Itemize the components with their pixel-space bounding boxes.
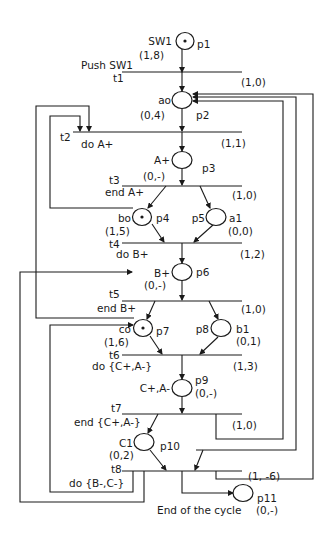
place-marking: (0,-) bbox=[143, 170, 165, 182]
place-label: C1 bbox=[119, 437, 133, 449]
place-id: p5 bbox=[192, 212, 205, 224]
transition-value: (1,0) bbox=[232, 189, 257, 201]
place-id: p2 bbox=[196, 109, 209, 121]
place-id: p7 bbox=[156, 325, 169, 337]
places bbox=[133, 33, 254, 502]
transition-id: t5 bbox=[109, 288, 120, 300]
place-label: A+ bbox=[154, 154, 170, 166]
transition-id: t7 bbox=[111, 402, 122, 414]
place-label: ao bbox=[158, 94, 171, 106]
transition-label: do {C+,A-} bbox=[92, 360, 152, 372]
place-id: p3 bbox=[202, 162, 215, 174]
place-id: p11 bbox=[257, 492, 277, 504]
transition-value: (1,3) bbox=[233, 360, 258, 372]
transition-value: (1,0) bbox=[241, 76, 266, 88]
place-label: End of the cycle bbox=[157, 504, 241, 516]
transition-label: end A+ bbox=[105, 186, 144, 198]
token-icon bbox=[183, 39, 186, 42]
place-marking: (0,-) bbox=[256, 504, 278, 516]
place-id: p4 bbox=[156, 212, 170, 224]
labels: SW1 (1,8) p1 Push SW1 t1 (1,0) ao (0,4) … bbox=[60, 35, 280, 516]
place-label: B+ bbox=[154, 267, 170, 279]
place-label: bo bbox=[118, 212, 131, 224]
place-marking: (0,-) bbox=[195, 387, 217, 399]
transition-label: Push SW1 bbox=[81, 59, 133, 71]
place-label: C+,A- bbox=[140, 382, 170, 394]
place-marking: (0,2) bbox=[109, 449, 134, 461]
place-marking: (1,8) bbox=[139, 49, 164, 61]
transition-label: end {C+,A-} bbox=[74, 416, 141, 428]
place-p2 bbox=[172, 92, 192, 109]
place-p10 bbox=[134, 434, 154, 451]
transition-id: t2 bbox=[60, 131, 71, 143]
place-label: co bbox=[119, 323, 131, 335]
place-marking: (0,-) bbox=[144, 279, 166, 291]
place-id: p9 bbox=[195, 374, 208, 386]
place-marking: (0,1) bbox=[236, 335, 261, 347]
place-label: SW1 bbox=[148, 35, 172, 47]
place-id: p8 bbox=[196, 323, 209, 335]
place-id: p6 bbox=[196, 266, 210, 278]
transition-value: (1, -6) bbox=[248, 470, 280, 482]
transition-label: do {B-,C-} bbox=[69, 477, 124, 489]
petri-net-diagram: SW1 (1,8) p1 Push SW1 t1 (1,0) ao (0,4) … bbox=[0, 0, 331, 538]
token-icon bbox=[141, 326, 144, 329]
place-marking: (0,4) bbox=[140, 109, 165, 121]
place-label: b1 bbox=[236, 323, 249, 335]
place-p6 bbox=[172, 264, 192, 281]
place-p3 bbox=[172, 152, 192, 169]
transition-value: (1,1) bbox=[221, 137, 246, 149]
place-id: p10 bbox=[160, 440, 180, 452]
transition-value: (1,0) bbox=[232, 419, 257, 431]
transition-value: (1,2) bbox=[240, 248, 265, 260]
place-p9 bbox=[172, 380, 192, 397]
place-p11 bbox=[233, 485, 253, 502]
place-id: p1 bbox=[197, 38, 210, 50]
transition-label: do A+ bbox=[81, 138, 113, 150]
transition-value: (1,0) bbox=[241, 303, 266, 315]
place-marking: (1,5) bbox=[105, 225, 130, 237]
transition-id: t3 bbox=[109, 174, 120, 186]
place-marking: (1,6) bbox=[104, 336, 129, 348]
transition-id: t8 bbox=[111, 463, 122, 475]
place-marking: (0,0) bbox=[228, 225, 253, 237]
transition-id: t1 bbox=[113, 72, 124, 84]
place-p5 bbox=[206, 209, 226, 226]
transition-label: end B+ bbox=[97, 302, 136, 314]
place-p8 bbox=[211, 320, 231, 337]
transition-label: do B+ bbox=[116, 248, 148, 260]
token-icon bbox=[140, 215, 143, 218]
place-label: a1 bbox=[229, 212, 242, 224]
